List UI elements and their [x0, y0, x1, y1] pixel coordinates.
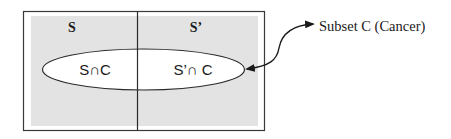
intersection-s-prime-c-label: S’∩ C — [173, 61, 212, 78]
region-s-prime-label: S’ — [190, 20, 202, 35]
region-s-label: S — [68, 20, 76, 35]
subset-c-ellipse — [43, 49, 245, 90]
intersection-s-c-label: S∩C — [79, 61, 111, 78]
subset-c-callout-label: Subset C (Cancer) — [319, 18, 425, 35]
venn-diagram: S S’ S∩C S’∩ C Subset C (Cancer) — [0, 0, 451, 139]
